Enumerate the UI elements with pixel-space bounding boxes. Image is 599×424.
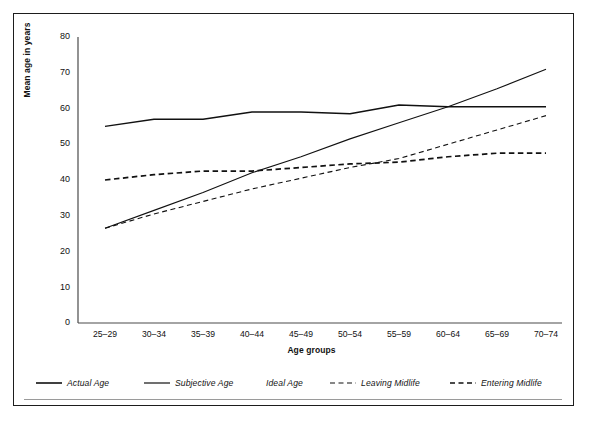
y-tick-30: 30 bbox=[44, 210, 70, 220]
series-layer bbox=[105, 69, 546, 228]
x-tick-45-49: 45–49 bbox=[289, 329, 313, 339]
y-tick-80: 80 bbox=[44, 31, 70, 41]
legend-item-entering-midlife[interactable]: Entering Midlife bbox=[450, 378, 542, 388]
x-tick-65-69: 65–69 bbox=[485, 329, 509, 339]
x-tick-35-39: 35–39 bbox=[191, 329, 215, 339]
x-axis-title: Age groups bbox=[0, 345, 599, 355]
y-tick-10: 10 bbox=[44, 282, 70, 292]
y-tick-0: 0 bbox=[44, 317, 70, 327]
legend-separator-rule bbox=[24, 399, 562, 400]
legend-item-ideal-age[interactable]: Ideal Age bbox=[266, 378, 303, 388]
legend-swatch-solid-thin-icon bbox=[144, 378, 170, 388]
x-tick-70-74: 70–74 bbox=[534, 329, 558, 339]
legend-label-entering-midlife: Entering Midlife bbox=[481, 378, 542, 388]
legend-item-leaving-midlife[interactable]: Leaving Midlife bbox=[330, 378, 420, 388]
x-tick-30-34: 30–34 bbox=[142, 329, 166, 339]
legend-label-leaving-midlife: Leaving Midlife bbox=[361, 378, 420, 388]
legend-label-ideal-age: Ideal Age bbox=[266, 378, 303, 388]
figure-root: 80 70 60 50 40 30 20 10 0 25–29 30–34 35… bbox=[0, 0, 599, 424]
x-tick-60-64: 60–64 bbox=[436, 329, 460, 339]
series-line-actual-age bbox=[105, 105, 546, 126]
series-line-subjective-age bbox=[105, 69, 546, 228]
y-tick-70: 70 bbox=[44, 67, 70, 77]
legend-swatch-dashed-thick-icon bbox=[450, 378, 476, 388]
x-tick-55-59: 55–59 bbox=[387, 329, 411, 339]
y-tick-40: 40 bbox=[44, 174, 70, 184]
series-line-leaving-midlife bbox=[105, 116, 546, 229]
chart-plot-area bbox=[0, 0, 599, 424]
legend-swatch-solid-icon bbox=[36, 378, 62, 388]
y-axis-title: Mean age in years bbox=[22, 0, 32, 120]
series-line-entering-midlife bbox=[105, 153, 546, 180]
legend-item-subjective-age[interactable]: Subjective Age bbox=[144, 378, 233, 388]
legend-label-actual-age: Actual Age bbox=[67, 378, 109, 388]
y-tick-20: 20 bbox=[44, 246, 70, 256]
x-tick-50-54: 50–54 bbox=[338, 329, 362, 339]
x-tick-40-44: 40–44 bbox=[240, 329, 264, 339]
x-tick-25-29: 25–29 bbox=[93, 329, 117, 339]
legend-label-subjective-age: Subjective Age bbox=[175, 378, 233, 388]
legend-item-actual-age[interactable]: Actual Age bbox=[36, 378, 109, 388]
y-tick-50: 50 bbox=[44, 138, 70, 148]
chart-legend: Actual Age Subjective Age Ideal Age Leav… bbox=[24, 378, 569, 394]
line-chart-svg bbox=[0, 0, 599, 424]
y-tick-60: 60 bbox=[44, 103, 70, 113]
legend-swatch-dashed-thin-icon bbox=[330, 378, 356, 388]
